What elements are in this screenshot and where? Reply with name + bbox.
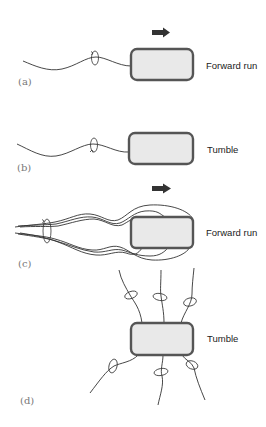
flagellum xyxy=(20,233,142,255)
flagellum xyxy=(23,57,131,70)
rotation-icon xyxy=(43,219,51,243)
rotation-icon xyxy=(152,292,167,301)
rotation-arrowhead xyxy=(90,150,93,153)
rotation-icon xyxy=(124,289,139,300)
panel-label: (b) xyxy=(17,162,31,173)
rotation-icon xyxy=(107,358,118,374)
state-label: Tumble xyxy=(207,144,238,155)
motion-arrow xyxy=(152,184,171,194)
flagellum xyxy=(90,355,138,393)
run-tumble-diagram: Forward run (a) Tumble (b) Forward run (… xyxy=(0,0,266,427)
flagellum xyxy=(161,270,164,323)
motion-arrow xyxy=(152,28,170,38)
panel-label: (c) xyxy=(18,258,32,269)
cell-body xyxy=(131,217,193,248)
panel-label: (d) xyxy=(20,395,34,406)
panel-label: (a) xyxy=(18,76,32,87)
panel-c: Forward run (c) xyxy=(15,184,257,270)
flagellum xyxy=(182,355,205,400)
panel-a: Forward run (a) xyxy=(18,28,257,88)
flagellum xyxy=(181,268,194,323)
flagellum xyxy=(158,355,163,405)
cell-body xyxy=(131,49,193,80)
cell-body xyxy=(129,133,193,164)
state-label: Forward run xyxy=(206,60,257,71)
flagellum xyxy=(119,270,142,323)
rotation-arrowhead xyxy=(42,220,44,224)
panel-d: Tumble (d) xyxy=(20,268,238,406)
flagellum xyxy=(17,144,129,156)
cell-body xyxy=(131,323,193,355)
state-label: Forward run xyxy=(206,227,257,238)
panel-b: Tumble (b) xyxy=(17,133,238,173)
state-label: Tumble xyxy=(207,333,238,344)
